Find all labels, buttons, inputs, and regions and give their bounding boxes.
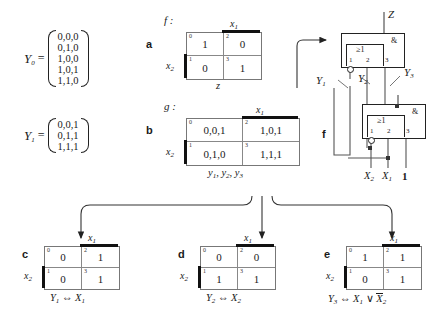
kmap-d: d x1 x2 00 20 11 31 Y2 ⇔ X2 xyxy=(200,246,276,290)
cell-index: 1 xyxy=(189,56,192,62)
circuit-input-constant-1: 1 xyxy=(402,170,408,182)
kmap-cell: 31 xyxy=(384,268,421,289)
cell-index: 0 xyxy=(47,247,50,253)
cell-index: 3 xyxy=(240,268,243,274)
cell-index: 0 xyxy=(349,247,352,253)
kmap-b-function-label: g : xyxy=(164,100,176,112)
kmap-d-row-var: x2 xyxy=(180,270,188,283)
cell-index: 2 xyxy=(84,247,87,253)
set-row: 1,0,1 xyxy=(58,64,79,75)
kmap-cell: 10,1,0 xyxy=(187,142,243,165)
junction-dot xyxy=(386,156,390,160)
arrow-b-to-c xyxy=(81,196,252,238)
equals-sign: = xyxy=(38,128,45,143)
gate-top-pin-3: 3 xyxy=(385,56,389,64)
set-y0-brace: 0,0,0 0,1,0 1,0,0 1,0,1 1,1,0 xyxy=(48,30,89,87)
cell-value: 0 xyxy=(362,273,368,285)
kmap-a-row-var: x2 xyxy=(166,60,174,73)
cell-index: 3 xyxy=(226,56,229,62)
cell-value: 0,1,0 xyxy=(204,148,226,160)
cell-index: 3 xyxy=(245,142,248,148)
cell-value: 1 xyxy=(98,273,104,285)
circuit-input-x2: X2 xyxy=(364,170,374,183)
gate-bottom[interactable]: ≥1 & 1 2 3 xyxy=(362,104,426,139)
kmap-a: f : a x1 x2 01 20 10 31 z xyxy=(186,32,262,80)
gate-top-pin-1: 1 xyxy=(349,56,353,64)
kmap-cell: 00,0,1 xyxy=(187,119,243,142)
gate-bottom-and-symbol: & xyxy=(412,107,418,116)
set-y1-name: Y1 xyxy=(24,128,35,144)
cell-index: 2 xyxy=(386,247,389,253)
kmap-cell: 21 xyxy=(384,247,421,268)
set-row: 1,1,0 xyxy=(58,75,79,86)
circuit-letter: f xyxy=(322,128,326,140)
set-y1-rows: 0,0,1 0,1,1 1,1,1 xyxy=(56,118,81,153)
gate-top-or-block xyxy=(346,44,384,66)
cell-value: 0 xyxy=(60,251,66,263)
kmap-c-row-var: x2 xyxy=(24,270,32,283)
arrow-a-to-circuit xyxy=(297,40,326,88)
cell-value: 0 xyxy=(60,273,66,285)
kmap-b-grid: 00,0,1 21,0,1 10,1,0 31,1,1 xyxy=(186,118,300,166)
set-y1-brace: 0,0,1 0,1,1 1,1,1 xyxy=(48,118,89,153)
kmap-cell: 10 xyxy=(187,56,224,79)
cell-index: 1 xyxy=(47,268,50,274)
gate-bottom-or-block xyxy=(367,115,405,137)
brace-right xyxy=(81,118,89,153)
cell-value: 1,1,1 xyxy=(260,148,282,160)
set-row: 0,1,1 xyxy=(58,130,79,141)
kmap-d-grid: 00 20 11 31 xyxy=(200,246,276,290)
signal-label-y1: Y1 xyxy=(316,74,326,88)
kmap-c-caption: Y1 ⇔ X1 xyxy=(50,292,85,305)
set-row: 0,1,0 xyxy=(58,42,79,53)
cell-value: 0 xyxy=(216,251,222,263)
cell-value: 1 xyxy=(240,62,246,74)
set-y0-rows: 0,0,0 0,1,0 1,0,0 1,0,1 1,1,0 xyxy=(56,30,81,87)
gate-top-and-symbol: & xyxy=(391,36,397,45)
signal-label-y3: Y3 xyxy=(404,66,414,80)
kmap-e-grid: 01 21 10 31 xyxy=(346,246,422,290)
kmap-a-grid: 01 20 10 31 xyxy=(186,32,262,80)
gate-top[interactable]: ≥1 & 1 2 3 xyxy=(341,33,405,68)
cell-index: 2 xyxy=(245,119,248,125)
gate-top-or-symbol: ≥1 xyxy=(356,45,364,54)
cell-value: 1 xyxy=(98,251,104,263)
cell-index: 1 xyxy=(189,142,192,148)
kmap-cell: 20 xyxy=(238,247,275,268)
kmap-cell: 31,1,1 xyxy=(243,142,299,165)
leader-y2 xyxy=(362,78,370,84)
equals-sign: = xyxy=(38,51,45,66)
kmap-a-bottom-label: z xyxy=(216,80,220,91)
cell-index: 0 xyxy=(189,33,192,39)
cell-index: 2 xyxy=(240,247,243,253)
kmap-cell: 21 xyxy=(82,247,119,268)
kmap-e-letter: e xyxy=(324,248,330,260)
cell-index: 2 xyxy=(226,33,229,39)
kmap-cell: 00 xyxy=(45,247,82,268)
kmap-e-row-var: x2 xyxy=(326,270,334,283)
kmap-cell: 00 xyxy=(201,247,238,268)
wire-feedback xyxy=(334,86,350,155)
leader-y1 xyxy=(338,80,348,88)
cell-value: 0 xyxy=(240,38,246,50)
junction-dot xyxy=(368,146,372,150)
gate-bottom-pin-1: 1 xyxy=(370,127,374,135)
cell-index: 1 xyxy=(203,268,206,274)
kmap-c-grid: 00 21 10 31 xyxy=(44,246,120,290)
kmap-cell: 10 xyxy=(347,268,384,289)
leader-y3 xyxy=(390,76,400,86)
cell-value: 1 xyxy=(254,273,260,285)
kmap-b-bottom-label: y1, y2, y3 xyxy=(208,167,243,180)
gate-bottom-or-symbol: ≥1 xyxy=(377,116,385,125)
circuit-input-x1: X1 xyxy=(382,170,392,183)
kmap-c-letter: c xyxy=(22,248,28,260)
junction-dot xyxy=(395,104,399,108)
cell-index: 1 xyxy=(349,268,352,274)
arrow-b-to-e xyxy=(272,196,392,238)
kmap-b: g : b x1 x2 00,0,1 21,0,1 10,1,0 31,1,1 … xyxy=(186,118,300,166)
gate-bottom-pin-2: 2 xyxy=(387,127,391,135)
kmap-cell: 11 xyxy=(201,268,238,289)
cell-value: 1,0,1 xyxy=(260,124,282,136)
gate-top-inversion-bubble xyxy=(347,66,354,73)
kmap-cell: 31 xyxy=(238,268,275,289)
